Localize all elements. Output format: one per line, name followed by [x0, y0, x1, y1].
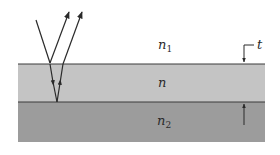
- label-n: n: [158, 75, 166, 90]
- label-n1: n1: [158, 37, 172, 54]
- film-layer: [18, 64, 265, 102]
- thickness-bracket: [244, 45, 254, 62]
- label-t: t: [257, 37, 263, 52]
- thin-film-diagram: n1 n n2 t: [0, 0, 280, 155]
- substrate-layer: [18, 102, 265, 142]
- incident-ray: [36, 20, 50, 63]
